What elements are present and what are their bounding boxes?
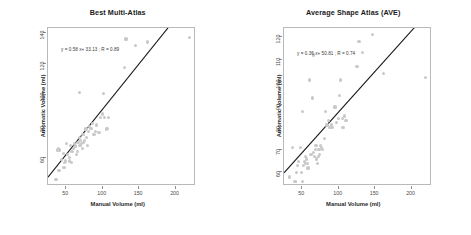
data-point	[301, 180, 304, 183]
data-point	[306, 166, 309, 169]
data-point	[91, 122, 94, 125]
data-point	[62, 166, 65, 169]
data-point	[107, 116, 110, 119]
data-point	[301, 110, 304, 113]
data-point	[134, 44, 137, 47]
data-point	[99, 116, 102, 119]
data-point	[81, 133, 84, 136]
y-axis-tick-label: 80	[39, 126, 45, 132]
figure-scatter-pair: Best Multi-Atlas y = 0.58 x+ 33.13 ; R =…	[0, 0, 471, 235]
x-axis-tick	[338, 186, 339, 189]
data-point	[70, 150, 73, 153]
x-axis-tick	[411, 186, 412, 189]
y-axis-tick-label: 80	[275, 126, 281, 132]
x-axis-tick-label: 200	[406, 190, 415, 196]
x-axis-tick-label: 150	[370, 190, 379, 196]
x-axis-tick-label: 100	[97, 190, 106, 196]
x-axis-tick	[374, 186, 375, 189]
data-point	[62, 152, 65, 155]
x-axis-tick	[102, 186, 103, 189]
data-point	[314, 144, 317, 147]
x-axis-tick-label: 50	[62, 190, 68, 196]
data-point	[57, 169, 60, 172]
y-axis-tick-label: 70	[275, 149, 281, 155]
y-axis-tick-label: 120	[39, 62, 45, 71]
data-point	[308, 78, 311, 81]
data-point	[146, 40, 149, 43]
y-axis-label: Automatic Volume (ml)	[40, 56, 46, 156]
panel-title: Average Shape Atlas (AVE)	[236, 8, 471, 17]
data-point	[295, 171, 298, 174]
data-point	[297, 160, 300, 163]
x-axis-tick-label: 200	[170, 190, 179, 196]
x-axis-tick	[175, 186, 176, 189]
regression-annotation: y = 0.58 x+ 33.13 ; R = 0.89	[61, 47, 119, 52]
y-axis-tick-label: 140	[39, 30, 45, 39]
x-axis-tick	[65, 186, 66, 189]
x-axis-tick-label: 150	[134, 190, 143, 196]
y-axis-tick-label: 100	[39, 93, 45, 102]
data-point	[344, 119, 347, 122]
y-axis-tick-label: 90	[275, 104, 281, 110]
data-point	[58, 148, 61, 151]
x-axis-label: Manual Volume (ml)	[0, 201, 236, 207]
panel-best-multi-atlas: Best Multi-Atlas y = 0.58 x+ 33.13 ; R =…	[0, 0, 236, 235]
data-point	[305, 157, 308, 160]
data-point	[64, 159, 67, 162]
x-axis-tick-label: 100	[333, 190, 342, 196]
data-point	[306, 162, 309, 165]
x-axis-tick	[138, 186, 139, 189]
data-point	[188, 36, 191, 39]
data-point	[357, 40, 360, 43]
data-point	[81, 147, 84, 150]
panel-average-shape-atlas: Average Shape Atlas (AVE) y = 0.36 x+ 50…	[236, 0, 471, 235]
panel-title: Best Multi-Atlas	[0, 8, 236, 17]
data-point	[323, 137, 326, 140]
x-axis-label: Manual Volume (ml)	[236, 201, 471, 207]
data-point	[92, 133, 95, 136]
data-point	[288, 175, 291, 178]
data-point	[341, 126, 344, 129]
y-axis-tick-label: 60	[39, 157, 45, 163]
data-point	[70, 161, 73, 164]
data-point	[343, 114, 346, 117]
y-axis-tick-label: 60	[275, 172, 281, 178]
regression-annotation: y = 0.36 x+ 50.81 ; R = 0.74	[297, 51, 355, 56]
y-axis-tick-label: 110	[275, 57, 281, 65]
data-point	[86, 144, 89, 147]
data-point	[123, 66, 126, 69]
data-point	[87, 130, 90, 133]
data-point	[78, 91, 81, 94]
data-point	[355, 65, 358, 68]
x-axis-tick-label: 50	[298, 190, 304, 196]
y-axis-tick-label: 100	[275, 80, 281, 89]
x-axis-tick	[301, 186, 302, 189]
y-axis-tick-label: 120	[275, 35, 281, 44]
data-point	[54, 178, 57, 181]
data-point	[333, 105, 336, 108]
data-point	[89, 127, 92, 130]
data-point	[105, 127, 108, 130]
data-point	[311, 96, 314, 99]
data-point	[124, 37, 127, 40]
